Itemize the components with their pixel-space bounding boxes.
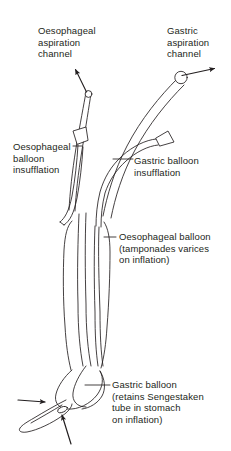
label-line: (retains Sengestaken (112, 391, 204, 403)
label-line: aspiration (167, 37, 209, 49)
oesophageal-aspiration-arrow-icon (76, 70, 87, 93)
label-oesophageal-aspiration-channel: Oesophageal aspiration channel (38, 25, 96, 60)
label-line: tube in stomach (112, 402, 204, 414)
label-line: Oesophageal balloon (119, 231, 211, 243)
label-line: Oesophageal (13, 141, 71, 153)
label-gastric-balloon: Gastric balloon (retains Sengestaken tub… (112, 379, 204, 425)
label-line: (tamponades varices (119, 243, 211, 255)
gastric-aspiration-tube (103, 79, 184, 218)
label-oesophageal-balloon: Oesophageal balloon (tamponades varices … (119, 231, 211, 266)
distal-tip (19, 400, 72, 432)
gastric-insufflation-connector-icon (156, 131, 174, 146)
label-line: on inflation) (112, 414, 204, 426)
label-line: Gastric balloon (112, 379, 204, 391)
gastric-aspiration-port-icon (175, 71, 187, 83)
label-line: insufflation (13, 164, 71, 176)
tip-arrow-bottom-icon (62, 415, 71, 444)
label-line: channel (38, 48, 96, 60)
label-gastric-balloon-insufflation: Gastric balloon insufflation (134, 155, 199, 178)
label-line: on inflation) (119, 254, 211, 266)
label-gastric-aspiration-channel: Gastric aspiration channel (167, 25, 209, 60)
label-line: insufflation (134, 167, 199, 179)
label-line: balloon (13, 153, 71, 165)
oesophageal-balloon-body (63, 213, 110, 370)
gastric-aspiration-arrow-icon (182, 69, 215, 76)
gastric-insufflation-tube (96, 139, 158, 227)
label-line: Gastric (167, 25, 209, 37)
label-oesophageal-balloon-insufflation: Oesophageal balloon insufflation (13, 141, 71, 176)
tip-arrow-left-icon (18, 400, 45, 402)
label-line: channel (167, 48, 209, 60)
oesophageal-insufflation-connector-icon (73, 127, 88, 144)
label-line: Oesophageal (38, 25, 96, 37)
label-line: Gastric balloon (134, 155, 199, 167)
label-line: aspiration (38, 37, 96, 49)
gastric-balloon-body (55, 366, 104, 409)
